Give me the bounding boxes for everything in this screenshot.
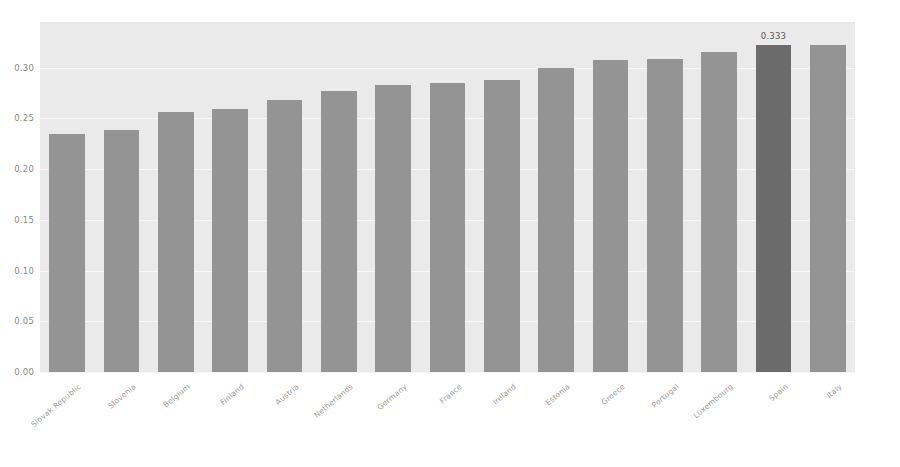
bar[interactable] xyxy=(484,80,520,372)
x-axis-tick-label: Greece xyxy=(599,382,626,407)
x-axis-tick-label: Luxembourg xyxy=(692,382,735,420)
y-axis-tick-label: 0.00 xyxy=(14,367,34,377)
x-axis-tick-label: Estonia xyxy=(544,382,572,408)
y-axis-tick-label: 0.25 xyxy=(14,113,34,123)
x-axis-tick-label: France xyxy=(437,382,463,406)
x-axis: Slovak RepublicSloveniaBelgiumFinlandAus… xyxy=(40,372,855,467)
bar[interactable] xyxy=(538,68,574,372)
bar[interactable]: 0.333 xyxy=(756,45,792,372)
bar[interactable] xyxy=(321,91,357,372)
x-axis-tick-label: Ireland xyxy=(491,382,518,406)
bar[interactable] xyxy=(49,134,85,372)
bar[interactable] xyxy=(158,112,194,372)
bar[interactable] xyxy=(810,45,846,372)
bar[interactable] xyxy=(430,83,466,372)
x-axis-tick-label: Belgium xyxy=(161,382,191,410)
x-axis-tick-label: Spain xyxy=(767,382,790,403)
x-axis-tick-label: Netherlands xyxy=(312,382,354,420)
x-axis-tick-label: Austria xyxy=(273,382,300,407)
x-axis-tick-label: Germany xyxy=(376,382,409,412)
bars-layer: 0.333 xyxy=(40,22,855,372)
bar[interactable] xyxy=(375,85,411,372)
x-axis-tick-label: Italy xyxy=(825,382,844,400)
x-axis-tick-label: Portugal xyxy=(650,382,681,410)
bar-chart-figure: 0.000.050.100.150.200.250.30 0.333 Slova… xyxy=(0,0,900,467)
bar[interactable] xyxy=(701,52,737,372)
y-axis-tick-label: 0.15 xyxy=(14,215,34,225)
bar[interactable] xyxy=(593,60,629,372)
x-axis-tick-label: Slovenia xyxy=(106,382,137,410)
bar[interactable] xyxy=(104,130,140,372)
bar[interactable] xyxy=(267,100,303,372)
bar-value-label: 0.333 xyxy=(761,31,786,41)
bar[interactable] xyxy=(212,109,248,372)
x-axis-tick-label: Finland xyxy=(219,382,246,407)
bar[interactable] xyxy=(647,59,683,372)
y-axis-tick-label: 0.30 xyxy=(14,63,34,73)
y-axis-tick-label: 0.20 xyxy=(14,164,34,174)
y-axis-tick-label: 0.10 xyxy=(14,266,34,276)
plot-area: 0.000.050.100.150.200.250.30 0.333 xyxy=(40,22,855,372)
x-axis-tick-label: Slovak Republic xyxy=(29,382,82,429)
y-axis-tick-label: 0.05 xyxy=(14,316,34,326)
